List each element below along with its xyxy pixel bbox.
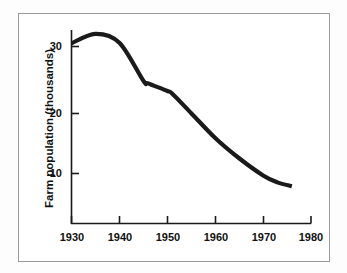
figure-root: 30 20 10 1930 1940 1950 1960 1970 1980 F… <box>0 0 347 273</box>
data-series-line <box>72 34 292 186</box>
x-tick-label-1980: 1980 <box>287 232 335 243</box>
x-tick-label-1950: 1950 <box>144 232 192 243</box>
x-tick-label-1940: 1940 <box>96 232 144 243</box>
x-axis-ticks <box>72 216 312 224</box>
x-tick-label-1960: 1960 <box>192 232 240 243</box>
x-tick-label-1930: 1930 <box>48 232 96 243</box>
y-axis-ticks <box>72 47 80 174</box>
y-axis-title: Farm population (thousands) <box>44 49 56 208</box>
axis-lines <box>71 30 311 224</box>
x-tick-label-1970: 1970 <box>240 232 288 243</box>
